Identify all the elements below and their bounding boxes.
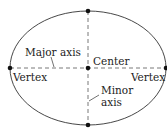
center-label: Center bbox=[93, 56, 129, 67]
center-dot bbox=[86, 66, 91, 71]
top-covertex-dot bbox=[86, 9, 91, 14]
vertex-left-label: Vertex bbox=[13, 72, 47, 83]
minor-axis-label-line1: Minor bbox=[101, 85, 133, 96]
major-axis-leader bbox=[51, 57, 54, 67]
ellipse-diagram bbox=[0, 0, 167, 131]
left-vertex-dot bbox=[8, 66, 13, 71]
bottom-covertex-dot bbox=[86, 123, 91, 128]
vertex-right-label: Vertex bbox=[131, 72, 165, 83]
right-vertex-dot bbox=[164, 66, 167, 71]
minor-axis-label-line2: axis bbox=[101, 97, 122, 108]
minor-axis-leader bbox=[89, 95, 99, 101]
major-axis-label: Major axis bbox=[25, 47, 81, 58]
